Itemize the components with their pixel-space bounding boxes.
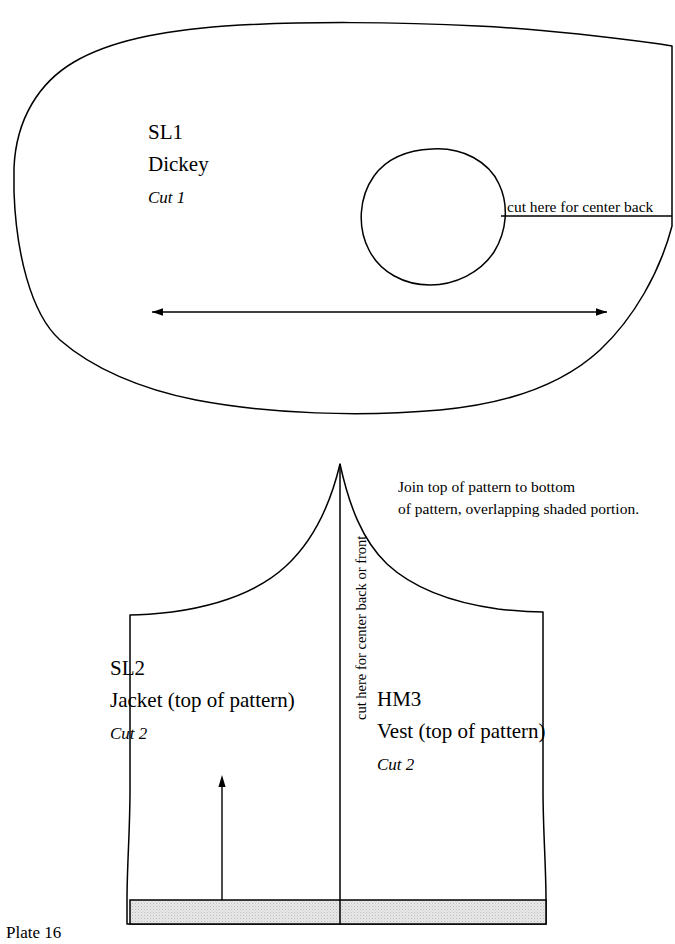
dickey-center-back-cut-label: cut here for center back: [507, 197, 653, 217]
dickey-code-label: SL1: [148, 119, 183, 147]
join-instruction-note: Join top of pattern to bottom of pattern…: [398, 476, 639, 521]
vest-cut-count-label: Cut 2: [377, 754, 414, 776]
join-instruction-line-2: of pattern, overlapping shaded portion.: [398, 498, 639, 520]
join-instruction-line-1: Join top of pattern to bottom: [398, 476, 639, 498]
center-cut-line-label: cut here for center back or front: [352, 536, 371, 720]
dickey-name-label: Dickey: [148, 151, 209, 179]
overlap-shaded-bar: [130, 900, 546, 924]
dickey-neck-hole: [361, 149, 505, 285]
dickey-outline: [14, 23, 672, 414]
dickey-cut-count-label: Cut 1: [148, 187, 185, 209]
vest-name-label: Vest (top of pattern): [377, 718, 546, 746]
pattern-plate-diagram: [0, 0, 675, 944]
jacket-name-label: Jacket (top of pattern): [110, 687, 295, 715]
jacket-code-label: SL2: [110, 655, 145, 683]
jacket-cut-count-label: Cut 2: [110, 723, 147, 745]
plate-caption: Plate 16: [6, 922, 61, 944]
vest-code-label: HM3: [377, 686, 421, 714]
